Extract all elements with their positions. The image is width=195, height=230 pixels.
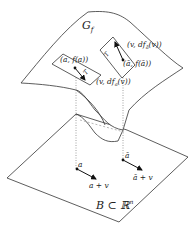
vector-label-a: (v, dfa(v))	[96, 77, 131, 87]
svg-text:a: a	[78, 160, 82, 169]
svg-text:ā: ā	[125, 151, 129, 160]
graph-tangent-diagram: T (a, f(a)) (v, dfa(v)) T (ā, f(ā)) (v, …	[0, 0, 195, 230]
target-label-abar: ā + v	[133, 173, 154, 182]
target-label-a: a + v	[89, 181, 110, 190]
point-label-abar: (ā, f(ā))	[123, 59, 151, 68]
graph-surface	[21, 11, 183, 130]
point-label-a: (a, f(a))	[60, 55, 88, 64]
base-label: B ⊂ ℝn	[95, 198, 133, 212]
vector-label-abar: (v, dfā(v))	[127, 40, 162, 50]
